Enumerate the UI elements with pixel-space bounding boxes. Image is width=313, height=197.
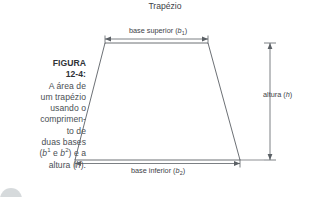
top-base-label-suffix: ) — [185, 26, 187, 35]
top-base-label: base superior (b1) — [106, 26, 210, 35]
height-dimension-line — [264, 43, 276, 160]
bottom-base-label-suffix: ) — [183, 166, 185, 175]
top-base-label-prefix: base superior ( — [129, 26, 178, 35]
bottom-base-label: base inferior (b2) — [78, 166, 238, 175]
trapezoid-shape — [75, 43, 240, 160]
bottom-base-label-prefix: base inferior ( — [131, 166, 176, 175]
height-label-suffix: ) — [290, 90, 292, 99]
height-label: altura (h) — [263, 90, 292, 99]
figure-container: Trapézio FIGURA 12-4: A área de um trapé… — [0, 0, 313, 197]
height-label-prefix: altura ( — [263, 90, 286, 99]
top-base-dimension-line — [105, 36, 208, 44]
